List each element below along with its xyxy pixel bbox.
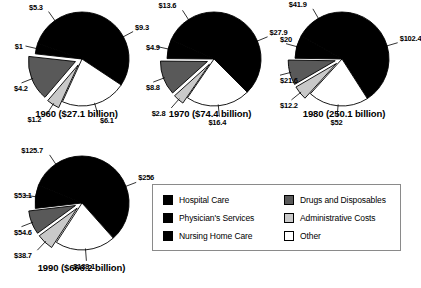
leader-line [291,92,301,100]
value-label-1960-drugs-and-disposables: $4.2 [14,84,28,93]
pie-caption-1970: 1970 ($74.4 billion) [146,108,274,119]
pie-caption-1990: 1990 ($666.2 billion) [14,262,149,273]
legend-swatch-drugs-and-disposables [284,195,294,205]
pie-chart-1960: $9.3$6.1$1.2$4.2$1$5.31960 ($27.1 billio… [14,2,139,130]
legend-item-other: Other [284,227,386,245]
value-label-1980-drugs-and-disposables: $21.6 [280,76,298,85]
value-label-1980-hospital-care: $102.4 [400,34,421,43]
leader-line [286,44,298,47]
leader-line [122,32,133,38]
leader-line [182,10,189,20]
pie-chart-1990: $256$138.1$38.7$54.6$53.1$125.71990 ($66… [14,148,149,281]
pie-chart-1980: $102.4$52$12.2$21.6$20$41.91980 (250.1 b… [280,2,408,130]
legend-item-nursing-home-care: Nursing Home Care [163,227,254,245]
value-label-1960-physician-s-services: $5.3 [29,3,43,12]
leader-line [37,241,46,250]
legend-label-drugs-and-disposables: Drugs and Disposables [300,195,386,205]
legend-swatch-hospital-care [163,195,173,205]
value-label-1970-drugs-and-disposables: $8.8 [146,83,160,92]
leader-line [21,222,33,227]
legend-item-drugs-and-disposables: Drugs and Disposables [284,191,386,209]
leader-line [25,46,37,49]
pie-caption-1980: 1980 (250.1 billion) [280,108,408,119]
legend-label-physicians-services: Physician's Services [179,213,254,223]
legend-swatch-other [284,231,294,241]
value-label-1980-other: $52 [331,118,343,127]
value-label-1980-nursing-home-care: $20 [280,35,292,44]
value-label-1990-drugs-and-disposables: $54.6 [14,228,32,237]
legend-column-right: Drugs and DisposablesAdministrative Cost… [284,191,386,245]
leader-line [50,155,57,165]
leader-line [386,43,398,46]
legend-swatch-nursing-home-care [163,231,173,241]
leader-line [256,37,267,42]
legend-column-left: Hospital CarePhysician's ServicesNursing… [163,191,254,245]
value-label-1980-physician-s-services: $41.9 [289,0,307,9]
legend-label-nursing-home-care: Nursing Home Care [179,231,252,241]
legend-swatch-physicians-services [163,213,173,223]
value-label-1990-nursing-home-care: $53.1 [14,191,32,200]
legend-item-physicians-services: Physician's Services [163,209,254,227]
leader-line [171,99,179,108]
chart-legend: Hospital CarePhysician's ServicesNursing… [152,184,401,251]
value-label-1960-nursing-home-care: $1 [15,42,23,51]
leader-line [22,78,34,83]
legend-swatch-administrative-costs [284,213,294,223]
value-label-1990-physician-s-services: $125.7 [21,146,43,155]
value-label-1990-administrative-costs: $38.7 [14,251,32,260]
value-label-1990-hospital-care: $256 [138,173,154,182]
value-label-1970-physician-s-services: $13.6 [158,1,176,10]
leader-line [125,182,137,186]
pie-caption-1960: 1960 ($27.1 billion) [14,108,139,119]
leader-line [313,9,319,20]
leader-line [280,72,291,75]
leader-line [153,78,165,82]
leader-line [49,12,56,22]
legend-label-other: Other [300,231,321,241]
value-label-1970-nursing-home-care: $4.9 [146,43,160,52]
legend-label-hospital-care: Hospital Care [179,195,229,205]
legend-item-hospital-care: Hospital Care [163,191,254,209]
leader-line [85,248,86,260]
legend-item-administrative-costs: Administrative Costs [284,209,386,227]
legend-label-administrative-costs: Administrative Costs [300,213,375,223]
value-label-1970-other: $16.4 [208,118,226,127]
pie-chart-1970: $27.9$16.4$2.8$8.8$4.9$13.61970 ($74.4 b… [146,2,274,130]
